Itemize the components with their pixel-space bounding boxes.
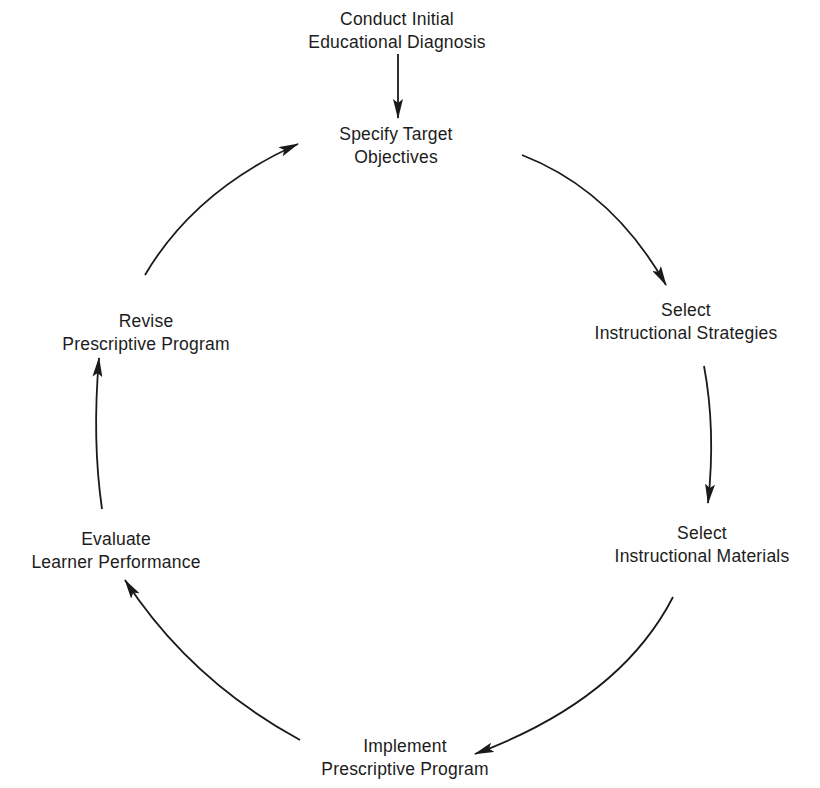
node-evaluate-learner-performance: Evaluate Learner Performance	[31, 528, 200, 574]
cycle-diagram: Conduct Initial Educational Diagnosis Sp…	[0, 0, 820, 788]
node-label-line: Instructional Materials	[615, 545, 790, 568]
node-label-line: Evaluate	[31, 528, 200, 551]
node-label-line: Objectives	[339, 146, 452, 169]
arrow-evaluate-to-revise	[96, 358, 102, 509]
arrows-layer	[0, 0, 820, 788]
node-conduct-initial-diagnosis: Conduct Initial Educational Diagnosis	[308, 8, 485, 54]
node-label-line: Select	[615, 522, 790, 545]
node-select-instructional-strategies: Select Instructional Strategies	[595, 299, 778, 345]
node-specify-target-objectives: Specify Target Objectives	[339, 123, 452, 169]
arrow-objectives-to-strategies	[522, 155, 666, 285]
arrow-implement-to-evaluate	[125, 580, 300, 740]
node-label-line: Conduct Initial	[308, 8, 485, 31]
node-label-line: Revise	[62, 310, 229, 333]
node-label-line: Learner Performance	[31, 551, 200, 574]
node-implement-prescriptive-program: Implement Prescriptive Program	[321, 735, 488, 781]
node-label-line: Select	[595, 299, 778, 322]
arrow-revise-to-objectives	[145, 144, 298, 275]
node-select-instructional-materials: Select Instructional Materials	[615, 522, 790, 568]
node-label-line: Implement	[321, 735, 488, 758]
node-label-line: Prescriptive Program	[62, 333, 229, 356]
arrow-strategies-to-materials	[704, 366, 711, 503]
node-label-line: Instructional Strategies	[595, 322, 778, 345]
arrow-materials-to-implement	[475, 597, 673, 754]
node-label-line: Prescriptive Program	[321, 758, 488, 781]
node-revise-prescriptive-program: Revise Prescriptive Program	[62, 310, 229, 356]
node-label-line: Educational Diagnosis	[308, 31, 485, 54]
node-label-line: Specify Target	[339, 123, 452, 146]
